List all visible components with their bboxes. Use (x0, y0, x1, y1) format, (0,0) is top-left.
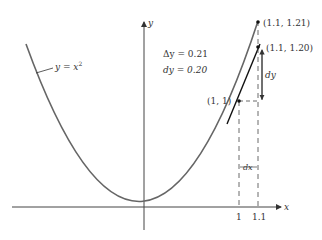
tangent-line (227, 44, 260, 124)
curve-label: y = x2 (54, 60, 82, 72)
point-1-1 (237, 99, 241, 103)
point-label-1-1: (1, 1) (207, 96, 231, 106)
y-axis-label: y (147, 18, 154, 28)
x-tick-1.1: 1.1 (252, 212, 266, 222)
delta-y-annotation: Δy = 0.21 (163, 49, 208, 59)
parabola-curve (26, 21, 258, 201)
dy-annotation: dy = 0.20 (163, 65, 207, 75)
point-1.1-1.20 (256, 45, 260, 49)
dy-arrow-label: dy (265, 70, 277, 80)
differential-diagram: y = x2 y x 1 1.1 Δy = 0.21 dy = 0.20 dy … (0, 0, 322, 240)
dx-label: dx (243, 163, 253, 172)
point-1.1-1.21 (256, 20, 260, 24)
curve-label-pointer (36, 68, 53, 73)
x-axis-label: x (284, 202, 289, 212)
x-tick-1: 1 (236, 212, 242, 222)
point-label-1.1-1.21: (1.1, 1.21) (263, 18, 310, 28)
point-label-1.1-1.20: (1.1, 1.20) (266, 43, 313, 53)
